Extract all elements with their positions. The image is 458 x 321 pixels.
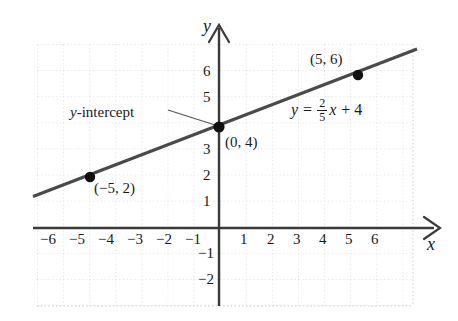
y-tick-label-5: 5 [203, 90, 211, 105]
x-tick-label-2: 2 [267, 232, 275, 247]
y-intercept-annotation-variable: y [70, 104, 77, 120]
coordinate-plane-figure: y x −6 −5 −4 −3 −2 −1 1 2 3 4 5 6 6 5 3 … [0, 0, 458, 321]
equation-numerator: 2 [317, 97, 327, 110]
x-tick-label--5: −5 [69, 232, 85, 247]
y-intercept-annotation: y-intercept [70, 105, 134, 120]
graph-canvas [0, 0, 458, 321]
y-tick-label--2: −2 [198, 272, 214, 287]
equation-constant: 4 [354, 102, 362, 118]
point-label-0-4: (0, 4) [225, 135, 258, 150]
data-point-5-6 [353, 70, 363, 80]
x-axis-label: x [427, 235, 435, 253]
x-tick-label-1: 1 [240, 232, 248, 247]
y-axis-label: y [203, 17, 211, 35]
x-tick-label--6: −6 [40, 232, 56, 247]
y-tick-label-6: 6 [203, 64, 211, 79]
point-label-5-6: (5, 6) [310, 52, 343, 67]
equation-lhs: y [290, 102, 299, 118]
x-tick-label--3: −3 [127, 232, 143, 247]
equation-label: y = 2 5 x + 4 [290, 97, 362, 123]
x-tick-label--4: −4 [98, 232, 114, 247]
x-tick-label-3: 3 [293, 232, 301, 247]
y-tick-label-1: 1 [203, 194, 211, 209]
equation-denominator: 5 [317, 110, 327, 124]
x-tick-label--2: −2 [156, 232, 172, 247]
x-tick-label-5: 5 [345, 232, 353, 247]
equation-equals: = [303, 102, 312, 118]
data-point-0-4 [213, 121, 224, 132]
y-tick-label--1: −1 [198, 246, 214, 261]
y-intercept-annotation-text: -intercept [77, 104, 134, 120]
point-label-neg5-2: (−5, 2) [94, 181, 135, 196]
y-tick-label-3: 3 [203, 142, 211, 157]
x-tick-label-6: 6 [371, 232, 379, 247]
x-tick-label-4: 4 [319, 232, 327, 247]
equation-fraction: 2 5 [317, 97, 327, 123]
equation-variable: x [328, 102, 337, 118]
y-tick-label-2: 2 [203, 168, 211, 183]
equation-plus: + [341, 102, 350, 118]
